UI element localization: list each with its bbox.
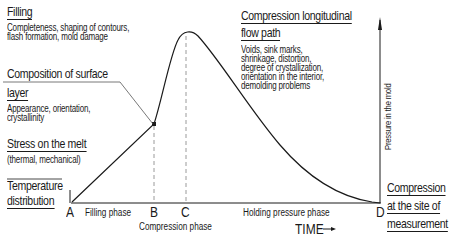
compression-flow-detail-5: demolding problems — [241, 81, 310, 91]
phase-filling: Filling phase — [85, 208, 131, 218]
point-d: D — [376, 204, 385, 219]
compression-site-title-1: Compression — [387, 180, 446, 196]
compression-site-title-3: measurement — [387, 216, 448, 232]
compression-site-title-2: at the site of — [387, 198, 440, 214]
compression-flow-title-2: flow path — [241, 25, 280, 41]
y-axis-label-wrap: Pressure in the mold — [383, 50, 395, 150]
point-a: A — [66, 204, 74, 219]
x-axis-label: TIME — [295, 221, 324, 236]
phase-compression: Compression phase — [139, 222, 212, 232]
phase-holding: Holding pressure phase — [243, 208, 330, 218]
time-arrow-icon — [331, 227, 336, 231]
surface-layer-title-2: layer — [7, 85, 28, 101]
point-c: C — [181, 204, 190, 219]
filling-title: Filling — [7, 4, 32, 20]
stress-title: Stress on the melt — [7, 136, 86, 152]
pressure-axis-arrow-icon — [378, 17, 382, 30]
surface-layer-detail-2: crystallinity — [7, 113, 44, 123]
surface-layer-title-1: Composition of surface — [7, 66, 108, 81]
filling-detail-2: flash formation, mold damage — [7, 32, 108, 42]
stress-detail: (thermal, mechanical) — [7, 155, 81, 165]
pressure-curve — [72, 32, 380, 203]
y-axis-label: Pressure in the mold — [383, 70, 393, 150]
temperature-title-2: distribution — [7, 193, 54, 209]
point-b: B — [150, 204, 158, 219]
compression-flow-title-1: Compression longitudinal — [241, 8, 352, 24]
temperature-title-1: Temperature — [7, 178, 63, 193]
